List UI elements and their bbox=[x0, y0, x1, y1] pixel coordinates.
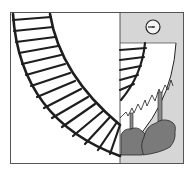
railway-illustration bbox=[0, 0, 194, 174]
clock-icon bbox=[146, 20, 160, 34]
